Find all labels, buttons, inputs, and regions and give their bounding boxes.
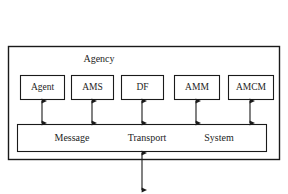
diagram-canvas — [0, 0, 288, 194]
component-label-agent: Agent — [20, 83, 65, 93]
bus-label-message: Message — [42, 133, 102, 143]
agency-container-label: Agency — [59, 54, 139, 64]
bus-label-system: System — [191, 133, 247, 143]
bus-label-transport: Transport — [116, 133, 178, 143]
component-label-amm: AMM — [174, 83, 220, 93]
component-label-df: DF — [121, 83, 164, 93]
component-label-amcm: AMCM — [228, 83, 274, 93]
agency-architecture-diagram: Agency Agent AMS DF AMM AMCM Message Tra… — [0, 0, 288, 194]
component-label-ams: AMS — [71, 83, 114, 93]
